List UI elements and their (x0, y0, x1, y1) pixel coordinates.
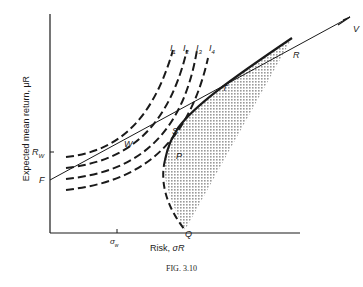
curve-label-i1: I1 (170, 44, 176, 55)
point-v-label: V (353, 25, 359, 34)
point-w-label: W (124, 140, 133, 149)
opportunity-set-region (164, 38, 292, 230)
sigma-w-label: σw (110, 238, 118, 248)
rw-label: RW (32, 148, 44, 159)
point-s-label: S (172, 127, 178, 136)
curve-label-i2: I2 (183, 44, 189, 55)
x-axis-label: Risk, σR (150, 244, 184, 253)
curve-label-i4: I4 (209, 44, 215, 55)
point-r-label: R (293, 51, 300, 60)
v-arrow-icon (338, 17, 350, 25)
point-t-label: T (222, 84, 228, 93)
point-p-label: P (176, 152, 182, 161)
curve-label-i3: I3 (196, 44, 202, 55)
point-q-label: Q (185, 230, 192, 239)
point-f-label: F (39, 176, 45, 185)
y-axis-label: Expected mean return, μR (22, 69, 31, 189)
figure-caption: FIG. 3.10 (166, 265, 197, 273)
